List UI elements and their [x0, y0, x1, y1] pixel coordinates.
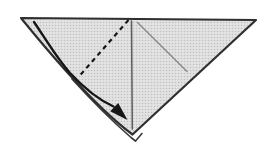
origami-diagram: [0, 0, 268, 146]
center-crease-line: [132, 21, 133, 129]
origami-fold-step-canvas: [0, 0, 268, 146]
